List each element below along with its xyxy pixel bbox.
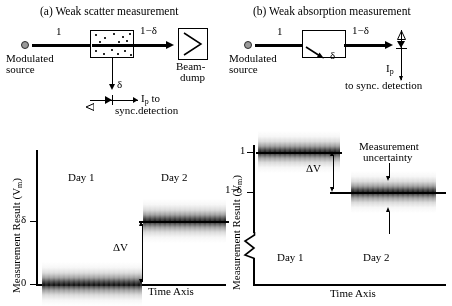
chart-b-ytick-label-1: 1: [240, 145, 245, 156]
panel-a-input-intensity: 1: [56, 26, 62, 38]
panel-b-transmitted-arrowhead: [385, 41, 393, 49]
panel-a-photodiode-lead: [90, 100, 138, 101]
panel-a-transmitted-beam: [92, 44, 167, 47]
panel-a-detector-line2: sync.detection: [115, 105, 178, 117]
chart-b-xlabel: Time Axis: [330, 288, 376, 300]
chart-a-deltav-line: [142, 224, 143, 282]
chart-b-uncertainty-arrow-up: [386, 207, 390, 212]
panel-a-detector-current-suffix: to: [149, 92, 160, 104]
chart-b-x-axis: [253, 284, 446, 286]
chart-b-segment-label-day2: Day 2: [363, 252, 390, 264]
chart-a-ytick-label-1: δ: [21, 214, 26, 226]
beam-dump-chevron-icon: [183, 32, 205, 56]
chart-a-ytick-0: [30, 284, 37, 285]
panel-a-transmitted-intensity: 1−δ: [140, 25, 157, 37]
panel-b-absorption-arrow: [305, 46, 329, 64]
panel-a-source-label-2: source: [6, 64, 35, 76]
panel-b-detector-line2: to sync. detection: [345, 80, 422, 92]
chart-a-day2-level-line: [139, 221, 229, 223]
panel-a-caption: (a) Weak scatter measurement: [40, 5, 178, 17]
chart-b-y-axis-upper: [253, 145, 255, 233]
panel-b-transmitted-beam: [344, 44, 386, 47]
chart-b-deltav-arrow-down: [330, 187, 334, 192]
chart-a-ylabel-sub: m: [15, 182, 24, 188]
chart-b-axis-break-icon: [243, 232, 256, 259]
photodiode-triangle-a: [105, 96, 112, 104]
chart-b-ytick-1: [247, 152, 254, 153]
panel-a-scatter-beam: [112, 58, 113, 86]
panel-b-transmitted-intensity: 1−δ: [352, 25, 369, 37]
chart-a-ylabel: Measurement Result (Vm): [11, 178, 25, 293]
chart-a-segment-label-day1: Day 1: [68, 172, 95, 184]
chart-a-xlabel: Time Axis: [148, 286, 194, 298]
chart-b-deltav-line: [333, 155, 334, 189]
photodiode-bar-a: [112, 95, 113, 105]
chart-b-uncertainty-line-bottom: [389, 212, 390, 234]
chart-b-ylabel-text: Measurement Result (V: [230, 185, 242, 290]
panel-a-photodiode-right-arrow: [133, 97, 138, 103]
chart-b-day2-level-line: [330, 192, 446, 194]
chart-b-ytick-label-2: 1−δ: [225, 184, 242, 196]
chart-b-ylabel-end: ): [230, 175, 242, 179]
photodiode-bar-b: [396, 48, 407, 49]
chart-b-annotation-uncertainty-2: uncertainty: [363, 152, 412, 164]
chart-b-segment-label-day1: Day 1: [277, 252, 304, 264]
chart-a-ylabel-end: ): [10, 178, 22, 182]
chart-a-segment-label-day2: Day 2: [161, 172, 188, 184]
chart-a-band-day1: [42, 262, 142, 306]
panel-b-source-label-2: source: [229, 64, 258, 76]
modulated-source-dot-b: [244, 41, 252, 49]
panel-a-photodiode-left-arrow: [86, 97, 94, 115]
panel-a-scattered-intensity: δ: [117, 79, 122, 91]
chart-a-ytick-label-0: 0: [21, 277, 26, 288]
panel-b-detector-current: Ip: [386, 63, 394, 77]
chart-a-deltav-arrow-down: [139, 279, 143, 284]
chart-b-ytick-2: [247, 192, 254, 193]
panel-a-input-beam: [32, 44, 92, 47]
chart-b-uncertainty-arrow-down: [386, 176, 390, 181]
chart-a-ytick-1: [30, 221, 37, 222]
chart-a-annotation-deltav: ΔV: [113, 242, 128, 254]
panel-b-caption: (b) Weak absorption measurement: [253, 5, 411, 17]
chart-b-deltav-arrow-up: [330, 151, 334, 156]
chart-b-y-axis-lower: [253, 258, 255, 286]
panel-a-transmitted-arrowhead: [166, 41, 174, 49]
panel-b-input-intensity: 1: [277, 26, 283, 38]
panel-b-absorbed-intensity: δ: [330, 50, 335, 62]
modulated-source-dot-a: [21, 41, 29, 49]
photodiode-triangle-b: [397, 41, 405, 48]
chart-a-deltav-arrow-up: [139, 221, 143, 226]
chart-a-y-axis: [36, 150, 38, 286]
chart-b-day1-level-line: [256, 152, 342, 154]
chart-b-annotation-deltav: ΔV: [306, 163, 321, 175]
panel-b-detector-current-sub: p: [390, 67, 394, 76]
panel-b-input-beam: [255, 44, 307, 47]
panel-a-beamdump-label-2: dump: [180, 72, 205, 84]
panel-a-scatter-arrowhead: [109, 84, 115, 90]
